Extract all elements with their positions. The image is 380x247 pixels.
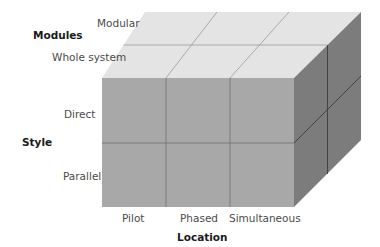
label-direct: Direct (64, 109, 95, 120)
label-phased: Phased (180, 213, 218, 224)
label-pilot: Pilot (122, 213, 144, 224)
label-modular: Modular (97, 18, 139, 29)
label-whole-system: Whole system (52, 52, 126, 63)
axis-title-modules: Modules (33, 30, 83, 41)
label-simultaneous: Simultaneous (229, 213, 301, 224)
label-parallel: Parallel (63, 171, 101, 182)
axis-title-style: Style (22, 137, 52, 148)
axis-title-location: Location (177, 232, 228, 243)
cube-front-face (102, 78, 294, 207)
